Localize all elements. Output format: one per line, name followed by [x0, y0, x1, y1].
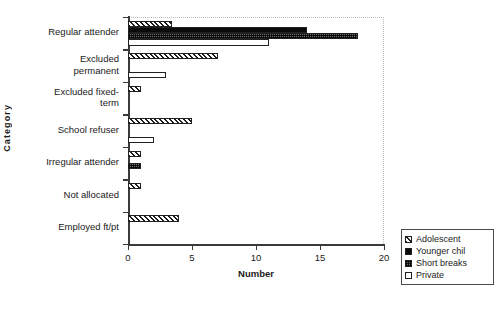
category-label: Not allocated	[0, 189, 119, 201]
x-axis-tick-label: 20	[369, 252, 399, 263]
bar-adolescent	[128, 183, 141, 189]
x-axis-tick	[320, 244, 321, 250]
plot-area	[128, 17, 384, 244]
legend-swatch-adolescent	[405, 236, 412, 243]
category-label: Irregular attender	[0, 156, 119, 168]
bar-private	[128, 137, 154, 143]
bar-private	[128, 72, 166, 78]
category-label: Regular attender	[0, 26, 119, 38]
legend-label: Younger chil	[416, 246, 465, 256]
y-axis-tick	[123, 82, 129, 83]
x-axis-tick-label: 5	[177, 252, 207, 263]
category-label: Excluded permanent	[0, 53, 119, 76]
category-label: School refuser	[0, 124, 119, 136]
x-axis-tick-label: 0	[113, 252, 143, 263]
x-axis-tick	[192, 244, 193, 250]
y-axis-tick	[123, 212, 129, 213]
x-axis-tick	[384, 244, 385, 250]
legend-item: Short breaks	[405, 257, 490, 269]
legend-swatch-short-breaks	[405, 260, 412, 267]
x-axis-title: Number	[128, 268, 384, 279]
x-axis-tick	[128, 244, 129, 250]
legend-item: Younger chil	[405, 245, 490, 257]
x-axis-tick-label: 10	[241, 252, 271, 263]
y-axis-tick	[123, 49, 129, 50]
bar-private	[128, 39, 269, 45]
legend-label: Short breaks	[416, 258, 467, 268]
legend-label: Adolescent	[416, 234, 461, 244]
legend-item: Adolescent	[405, 233, 490, 245]
category-label: Employed ft/pt	[0, 221, 119, 233]
category-label: Excluded fixed- term	[0, 86, 119, 109]
x-axis-tick	[256, 244, 257, 250]
bar-adolescent	[128, 151, 141, 157]
legend-label: Private	[416, 270, 444, 280]
bar-adolescent	[128, 53, 218, 59]
legend-item: Private	[405, 269, 490, 281]
x-axis-tick-label: 15	[305, 252, 335, 263]
bar-adolescent	[128, 86, 141, 92]
chart-legend: AdolescentYounger chilShort breaksPrivat…	[401, 229, 494, 285]
bar-adolescent	[128, 118, 192, 124]
y-axis-tick	[123, 147, 129, 148]
bar-adolescent	[128, 215, 179, 221]
legend-swatch-private	[405, 272, 412, 279]
bar-chart: Category Regular attenderExcluded perman…	[0, 0, 500, 309]
legend-swatch-younger-chil	[405, 248, 412, 255]
y-axis-tick	[123, 114, 129, 115]
y-axis-tick	[123, 17, 129, 18]
y-axis-tick	[123, 179, 129, 180]
bar-short-breaks	[128, 163, 141, 169]
